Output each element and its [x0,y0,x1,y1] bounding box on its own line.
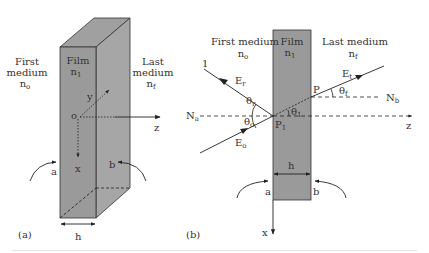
svg-text:Last medium: Last medium [322,36,388,47]
normal-b-label: Nb [386,92,400,105]
svg-text:First medium: First medium [211,36,280,47]
z-axis-label-b: z [406,120,411,131]
last-medium-label-a: Last medium nf [133,56,174,91]
z-axis-label: z [154,122,159,133]
figure-canvas: o y z x First medium no Film n1 Last med… [0,0,429,253]
first-medium-label-a: First medium no [7,56,48,91]
normal-a-label: Na [186,110,199,123]
first-medium-label-b: First medium no [211,36,280,61]
svg-text:Last: Last [142,56,164,67]
point-P-label: P [313,84,320,95]
theta-r-label: θr [246,95,256,108]
interface-b-label-b: b [313,186,319,197]
panel-b-caption: (b) [186,229,200,240]
interface-a-label-b: a [265,186,271,197]
theta-f-arc [331,89,333,97]
origin-label: o [71,110,77,121]
interface-b-label: b [109,159,115,170]
x-axis-label-b: x [262,227,268,238]
svg-text:medium: medium [133,67,174,78]
x-axis-label: x [75,163,81,174]
panel-a: o y z x First medium no Film n1 Last med… [7,18,174,242]
svg-text:Film: Film [281,36,304,47]
interface-b-arrow-b [315,181,346,198]
svg-text:nf: nf [146,78,156,91]
svg-text:nf: nf [348,48,358,61]
interface-a-label: a [51,166,57,177]
reflected-ray-label: 1 [202,58,208,69]
interface-a-arrow-b [237,181,268,198]
svg-text:no: no [20,78,31,91]
incident-ray-arrowhead [240,128,248,134]
svg-text:Film: Film [67,55,90,66]
bottom-divider [12,250,417,251]
thickness-label-a: h [75,231,82,242]
panel-a-caption: (a) [18,229,32,240]
y-axis-label: y [86,91,93,102]
E-o-label: Eo [235,137,247,150]
svg-text:First: First [15,56,39,67]
E-t-label: Et [342,68,352,81]
thickness-label-b: h [288,160,295,171]
panel-b: First medium no Film n1 Last medium nf 1… [186,30,412,240]
svg-text:no: no [238,48,249,61]
theta-o-label: θo [244,116,254,129]
svg-text:medium: medium [7,67,48,78]
theta-f-label: θf [339,85,349,98]
E-r-label: Er [235,75,246,88]
last-medium-label-b: Last medium nf [322,36,388,61]
